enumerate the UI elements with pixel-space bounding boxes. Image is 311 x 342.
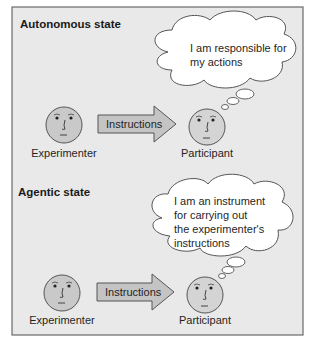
thought-line: for carrying out — [174, 209, 247, 221]
panel-title: Autonomous state — [20, 18, 121, 30]
thought-line: my actions — [190, 56, 243, 68]
participant-label: Participant — [181, 147, 233, 159]
thought-line: I am an instrument — [174, 195, 265, 207]
thought-line: the experimenter's — [174, 223, 265, 235]
arrow-label: Instructions — [105, 286, 162, 298]
participant-label: Participant — [179, 314, 231, 326]
experimenter-label: Experimenter — [29, 314, 95, 326]
panel-title: Agentic state — [18, 186, 90, 198]
obedience-diagram: Autonomous state I am responsible for my… — [0, 0, 311, 342]
experimenter-face-icon — [44, 275, 80, 311]
participant-face-icon — [189, 109, 225, 145]
arrow-label: Instructions — [106, 118, 163, 130]
experimenter-label: Experimenter — [31, 147, 97, 159]
thought-line: I am responsible for — [190, 42, 287, 54]
thought-line: instructions — [174, 237, 230, 249]
participant-face-icon — [187, 277, 223, 313]
experimenter-face-icon — [46, 107, 82, 143]
